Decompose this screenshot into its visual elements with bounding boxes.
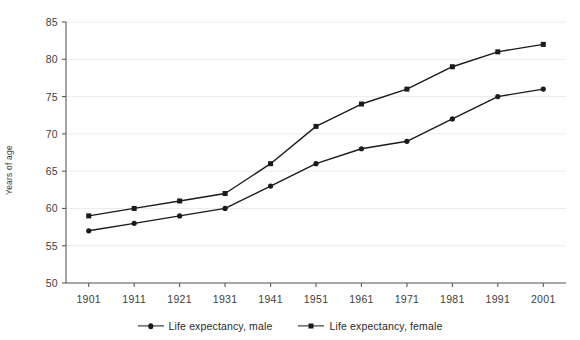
legend-item-male: Life expectancy, male bbox=[138, 320, 273, 332]
x-tick-1931: 1931 bbox=[213, 293, 238, 305]
y-tick-80: 80 bbox=[32, 53, 58, 65]
legend-item-female: Life expectancy, female bbox=[298, 320, 442, 332]
x-tick-1911: 1911 bbox=[122, 293, 146, 305]
y-tick-50: 50 bbox=[32, 277, 58, 289]
y-tick-55: 55 bbox=[32, 240, 58, 252]
x-tick-1991: 1991 bbox=[486, 293, 511, 305]
x-tick-1971: 1971 bbox=[395, 293, 420, 305]
legend-label-male: Life expectancy, male bbox=[169, 320, 273, 332]
x-tick-1921: 1921 bbox=[167, 293, 192, 305]
y-tick-60: 60 bbox=[32, 202, 58, 214]
y-tick-65: 65 bbox=[32, 165, 58, 177]
plot-area bbox=[0, 0, 580, 340]
y-tick-85: 85 bbox=[32, 16, 58, 28]
legend-marker-circle-icon bbox=[138, 321, 164, 331]
x-tick-1951: 1951 bbox=[304, 293, 329, 305]
x-tick-1941: 1941 bbox=[258, 293, 283, 305]
legend-label-female: Life expectancy, female bbox=[329, 320, 442, 332]
line-chart: Years of age 5055606570758085 1901191119… bbox=[0, 0, 580, 340]
x-tick-2001: 2001 bbox=[531, 293, 556, 305]
x-tick-1961: 1961 bbox=[349, 293, 374, 305]
legend-marker-square-icon bbox=[298, 321, 324, 331]
y-tick-70: 70 bbox=[32, 128, 58, 140]
x-tick-1981: 1981 bbox=[440, 293, 465, 305]
y-tick-75: 75 bbox=[32, 91, 58, 103]
x-tick-1901: 1901 bbox=[76, 293, 101, 305]
chart-legend: Life expectancy, male Life expectancy, f… bbox=[0, 320, 580, 332]
